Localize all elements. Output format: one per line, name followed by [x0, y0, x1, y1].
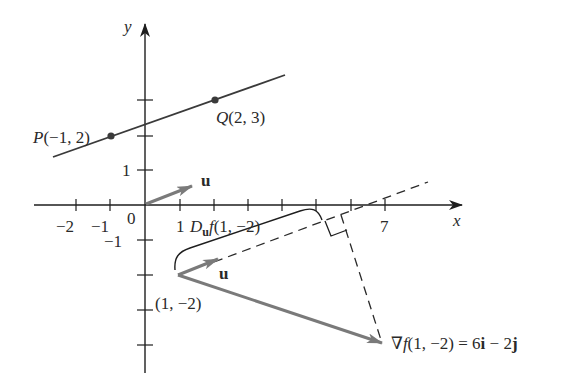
origin-label: 0 — [127, 209, 136, 228]
u-base-label: u — [219, 264, 228, 283]
x-tick-label-7: 7 — [380, 217, 389, 236]
unit-vector-u-base: u — [178, 259, 228, 283]
point-P-label: P(−1, 2) — [32, 128, 90, 147]
base-point-label: (1, −2) — [155, 294, 201, 313]
perpendicular-marker — [325, 215, 381, 340]
y-tick-label-1: 1 — [122, 161, 131, 180]
diagram-canvas: x −2 −1 0 1 7 y 1 −1 P(−1, 2) Q(2, 3) u — [0, 0, 578, 387]
y-tick-label-neg1: −1 — [104, 232, 122, 251]
projection-brace: Duf(1, −2) — [175, 209, 322, 270]
line-PQ: P(−1, 2) Q(2, 3) — [32, 75, 285, 157]
point-P — [107, 132, 114, 139]
point-Q — [211, 96, 218, 103]
x-tick-label-neg2: −2 — [56, 217, 74, 236]
x-axis-label: x — [452, 211, 461, 230]
y-axis-label: y — [122, 17, 132, 36]
x-tick-label-1: 1 — [176, 217, 185, 236]
y-axis: y 1 −1 — [104, 17, 153, 373]
gradient-vector: (1, −2) ∇f(1, −2) = 6i − 2j — [155, 275, 518, 353]
point-Q-label: Q(2, 3) — [216, 108, 265, 127]
gradient-label: ∇f(1, −2) = 6i − 2j — [391, 334, 518, 353]
directional-derivative-label: Duf(1, −2) — [189, 217, 260, 239]
u-origin-label: u — [201, 171, 210, 190]
unit-vector-u-origin: u — [146, 171, 210, 204]
